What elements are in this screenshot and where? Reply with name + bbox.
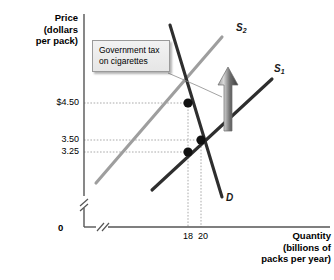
curve-label-s1: S1 xyxy=(274,63,285,74)
x-tick-label-20: 20 xyxy=(191,231,215,241)
supply-demand-chart: Price (dollars per pack) Quantity (billi… xyxy=(0,0,334,280)
curve-label-s1-text: S xyxy=(274,63,281,74)
supply-shift-arrow-icon xyxy=(218,67,238,131)
point-equilibrium-after-tax xyxy=(183,98,192,107)
callout-leader-line xyxy=(168,73,222,97)
point-net-of-tax-price xyxy=(183,147,192,156)
curve-label-s2: S2 xyxy=(236,22,247,33)
curve-demand xyxy=(170,25,222,197)
y-tick-label-350: 3.50 xyxy=(26,134,79,144)
y-tick-label-450: $4.50 xyxy=(26,97,79,107)
curve-label-s2-subscript: 2 xyxy=(243,27,247,34)
curve-label-d: D xyxy=(226,192,233,203)
government-tax-callout: Government tax on cigarettes xyxy=(92,40,170,72)
curve-label-s1-subscript: 1 xyxy=(281,68,285,75)
curve-label-s2-text: S xyxy=(236,22,243,33)
point-equilibrium-before-tax xyxy=(196,135,205,144)
origin-label: 0 xyxy=(58,222,63,233)
y-tick-label-325: 3.25 xyxy=(26,146,79,156)
x-axis-break-icon xyxy=(97,223,109,231)
y-axis-title: Price (dollars per pack) xyxy=(6,12,78,47)
reference-lines xyxy=(84,103,201,227)
x-axis-title: Quantity (billions of packs per year) xyxy=(236,230,331,265)
